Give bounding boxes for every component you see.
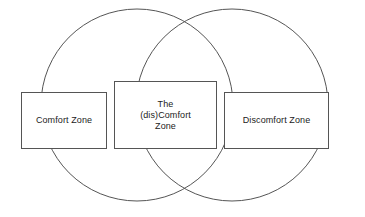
discomfort-zone-label: Discomfort Zone xyxy=(243,115,311,126)
discomfort-overlap-zone-label: The (dis)Comfort Zone xyxy=(140,99,191,132)
venn-diagram: Comfort Zone The (dis)Comfort Zone Disco… xyxy=(0,0,365,217)
comfort-zone-label: Comfort Zone xyxy=(36,115,92,126)
discomfort-overlap-zone-box: The (dis)Comfort Zone xyxy=(114,81,217,149)
discomfort-zone-box: Discomfort Zone xyxy=(224,92,329,149)
comfort-zone-box: Comfort Zone xyxy=(21,92,107,149)
